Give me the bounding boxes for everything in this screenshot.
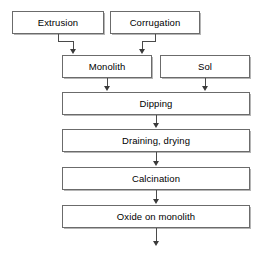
node-monolith: Monolith (62, 55, 152, 78)
node-extrusion: Extrusion (12, 11, 104, 34)
node-draining-drying-label: Draining, drying (122, 136, 190, 146)
node-corrugation: Corrugation (110, 11, 200, 34)
arrowhead-corrugation-to-monolith (139, 49, 145, 54)
node-sol: Sol (160, 55, 250, 78)
node-dipping-label: Dipping (140, 99, 173, 109)
arrowhead-calcination-to-oxide (153, 199, 159, 204)
node-oxide-on-monolith: Oxide on monolith (62, 205, 250, 228)
flowchart-canvas: Extrusion Corrugation Monolith Sol Dippi… (0, 0, 264, 257)
arrowhead-oxide-to-output (153, 241, 159, 246)
node-corrugation-label: Corrugation (130, 18, 181, 28)
node-monolith-label: Monolith (89, 62, 126, 72)
arrowhead-extrusion-to-monolith (70, 49, 76, 54)
node-sol-label: Sol (198, 62, 212, 72)
node-draining-drying: Draining, drying (62, 129, 250, 152)
arrowhead-dipping-to-draining (153, 123, 159, 128)
arrowhead-monolith-to-dipping (104, 86, 110, 91)
node-oxide-on-monolith-label: Oxide on monolith (117, 212, 195, 222)
node-calcination: Calcination (62, 167, 250, 190)
arrowhead-draining-to-calcination (153, 161, 159, 166)
node-extrusion-label: Extrusion (38, 18, 79, 28)
node-calcination-label: Calcination (132, 174, 180, 184)
node-dipping: Dipping (62, 92, 250, 115)
arrowhead-sol-to-dipping (202, 86, 208, 91)
